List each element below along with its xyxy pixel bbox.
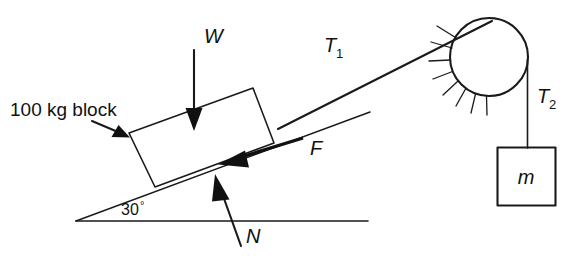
tension-1-subscript: 1 [336, 46, 343, 61]
normal-label: N [246, 225, 261, 247]
pulley-wheel [450, 18, 528, 96]
tension-1-label: T 1 [324, 34, 343, 61]
normal-arrow [212, 174, 241, 246]
weight-label: W [204, 25, 225, 47]
weight-arrow [186, 50, 203, 131]
block-100kg [129, 88, 274, 187]
block-callout-arrow [92, 121, 130, 138]
hanging-mass-label: m [518, 166, 535, 188]
tension-2-subscript: 2 [549, 97, 556, 112]
inclined-plane-pulley-diagram: 30 ° m W [0, 0, 572, 256]
rope-segment-t1 [278, 21, 492, 129]
friction-arrow [218, 138, 303, 168]
incline-angle-label: 30 [121, 201, 139, 218]
friction-label: F [310, 137, 324, 159]
pulley-support-hatching [429, 26, 487, 115]
block-mass-label: 100 kg block [10, 99, 117, 120]
physics-diagram-canvas: 30 ° m W [0, 0, 572, 256]
tension-2-label: T 2 [537, 85, 556, 112]
degree-symbol: ° [140, 199, 144, 211]
